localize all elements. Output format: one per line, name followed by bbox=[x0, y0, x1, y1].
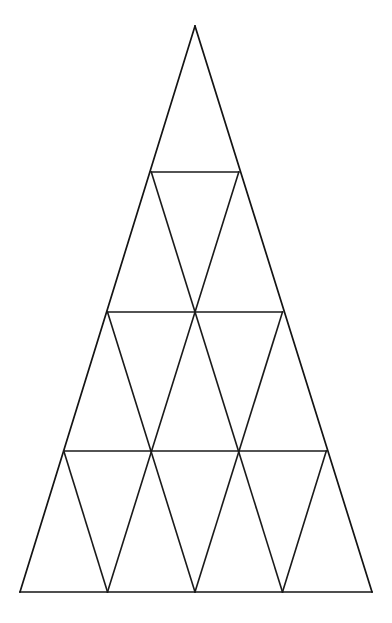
triangle-figure-canvas: Subdivided Equilateral Triangle A large … bbox=[0, 0, 392, 623]
